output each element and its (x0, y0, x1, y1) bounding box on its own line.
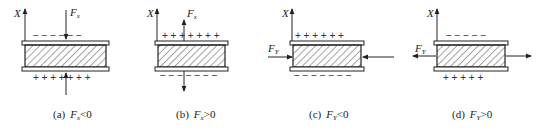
force-label: Fx (186, 7, 198, 21)
top-charges: − − − − − − (33, 30, 82, 41)
caption-b: (b)Fx>0 (176, 108, 216, 122)
bottom-electrode (434, 67, 508, 71)
crystal (158, 45, 225, 67)
top-charges: + + + + + + (295, 30, 344, 41)
x-axis-label: X (13, 7, 22, 19)
x-axis-label: X (146, 7, 155, 19)
caption-d: (d)FY>0 (452, 108, 493, 122)
x-axis-label: X (426, 7, 435, 19)
panel-b: X + + + + + + + − − − − − − − Fx (b)Fx>0 (146, 7, 228, 122)
caption-a: (a)Fx<0 (53, 108, 92, 122)
force-label: Fx (69, 6, 81, 20)
top-charges: − − − − − (446, 30, 486, 41)
bottom-charges: − − − − − − − (160, 70, 218, 81)
panel-a: X − − − − − − + + + + + + + Fx (a)Fx<0 (13, 6, 109, 122)
caption-c: (c)FY<0 (309, 108, 349, 122)
crystal (25, 45, 106, 67)
bottom-charges: + + + + + (443, 72, 483, 83)
force-label: FY (267, 42, 280, 56)
bottom-charges: + + + + + + + (33, 72, 91, 83)
crystal (437, 45, 505, 67)
panel-d: X − − − − − + + + + + FY (d)FY>0 (413, 7, 531, 122)
crystal (293, 45, 361, 67)
bottom-electrode (22, 67, 109, 71)
x-axis-label: X (281, 7, 290, 19)
force-label: FY (414, 42, 427, 56)
piezoelectric-effect-diagram: X − − − − − − + + + + + + + Fx (a)Fx<0 X… (0, 0, 542, 136)
bottom-charges: − − − − − − − (294, 70, 352, 81)
top-charges: + + + + + + + (162, 30, 220, 41)
panel-c: X + + + + + + − − − − − − − FY (c)FY<0 (267, 7, 394, 122)
